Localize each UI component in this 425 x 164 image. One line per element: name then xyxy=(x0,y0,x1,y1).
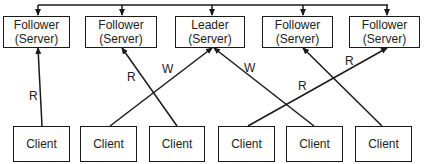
server-leader: Leader (Server) xyxy=(175,16,245,48)
server-follower-2: Follower (Server) xyxy=(85,16,157,48)
client-label: Client xyxy=(162,137,193,151)
client-label: Client xyxy=(231,137,262,151)
server-role: Follower xyxy=(98,18,143,32)
zookeeper-diagram: Follower (Server) Follower (Server) Lead… xyxy=(0,0,425,164)
server-type: (Server) xyxy=(276,32,319,46)
server-follower-3: Follower (Server) xyxy=(262,16,333,48)
server-type: (Server) xyxy=(188,32,231,46)
read-arrow xyxy=(38,48,42,126)
client-4: Client xyxy=(218,126,275,162)
client-label: Client xyxy=(299,137,330,151)
client-label: Client xyxy=(26,137,57,151)
client-label: Client xyxy=(93,137,124,151)
server-role: Leader xyxy=(191,18,228,32)
client-6: Client xyxy=(355,126,412,162)
read-arrow xyxy=(122,48,177,126)
server-type: (Server) xyxy=(15,32,58,46)
op-label-write: W xyxy=(244,61,255,75)
read-arrow xyxy=(303,48,382,126)
server-role: Follower xyxy=(275,18,320,32)
op-label-read: R xyxy=(298,79,307,93)
server-follower-4: Follower (Server) xyxy=(349,16,420,48)
client-label: Client xyxy=(368,137,399,151)
client-1: Client xyxy=(13,126,70,162)
read-arrow xyxy=(248,48,387,126)
server-role: Follower xyxy=(362,18,407,32)
op-label-read: R xyxy=(29,89,38,103)
server-type: (Server) xyxy=(363,32,406,46)
op-label-read: R xyxy=(345,54,354,68)
client-5: Client xyxy=(286,126,343,162)
write-arrow xyxy=(110,48,212,126)
server-follower-1: Follower (Server) xyxy=(3,16,70,48)
op-label-read: R xyxy=(127,70,136,84)
client-connections xyxy=(38,48,387,126)
client-2: Client xyxy=(80,126,137,162)
op-label-write: W xyxy=(162,62,173,76)
client-3: Client xyxy=(149,126,205,162)
server-type: (Server) xyxy=(99,32,142,46)
replication-bus xyxy=(38,5,388,15)
server-role: Follower xyxy=(14,18,59,32)
